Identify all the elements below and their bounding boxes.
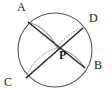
- geometry-figure: A D B C P: [0, 0, 112, 97]
- point-label-p: P: [59, 49, 66, 61]
- point-label-a: A: [17, 1, 26, 13]
- chord-cd: [26, 28, 83, 78]
- point-label-c: C: [4, 76, 12, 88]
- point-label-b: B: [94, 59, 102, 71]
- point-label-d: D: [89, 12, 98, 24]
- chord-ab: [28, 22, 85, 68]
